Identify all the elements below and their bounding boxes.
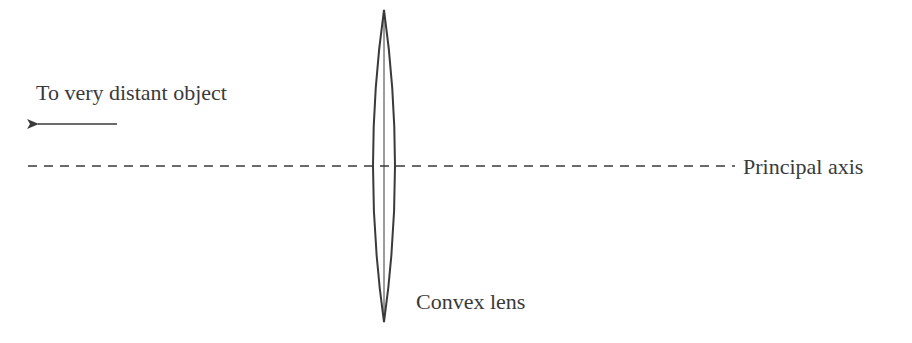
principal-axis-label: Principal axis [743, 156, 863, 178]
distant-object-label: To very distant object [36, 82, 227, 104]
convex-lens-label: Convex lens [416, 291, 525, 313]
